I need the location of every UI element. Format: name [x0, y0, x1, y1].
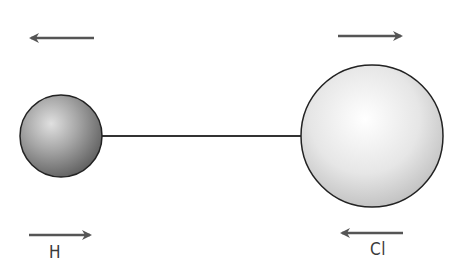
diagram-svg	[0, 0, 462, 277]
hydrogen-label: H	[49, 244, 61, 261]
chlorine-label: Cl	[370, 241, 386, 258]
hcl-vibration-diagram: H Cl	[0, 0, 462, 277]
chlorine-atom	[301, 65, 443, 207]
hydrogen-atom	[20, 95, 102, 177]
